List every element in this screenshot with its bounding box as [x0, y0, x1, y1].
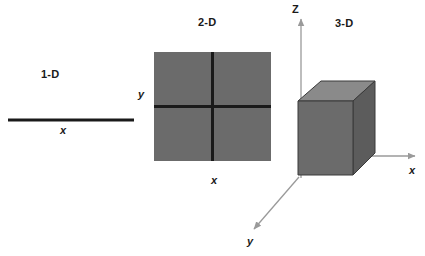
axis-label-x-3d: x	[409, 164, 415, 176]
three-dimensional-cube	[295, 78, 379, 180]
dimensionality-diagram: 1-D x 2-D y x 3-D	[0, 0, 425, 256]
axis-label-z-3d: Z	[292, 3, 299, 15]
axis-label-y-3d: y	[247, 235, 253, 247]
